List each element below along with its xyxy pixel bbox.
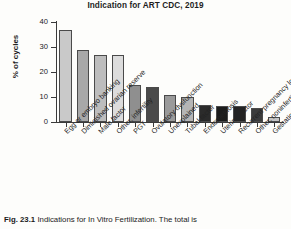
y-axis-tick-label: 0 <box>28 118 48 126</box>
y-axis-tick-label: 30 <box>28 43 48 51</box>
y-axis-tick <box>51 22 56 23</box>
chart-title: Indication for ART CDC, 2019 <box>0 1 291 10</box>
y-axis-tick <box>51 47 56 48</box>
y-axis-tick-label: 20 <box>28 68 48 76</box>
y-axis-label: % of cycles <box>11 20 20 94</box>
y-axis-tick-label: 40 <box>28 18 48 26</box>
figure-container: Indication for ART CDC, 2019 % of cycles… <box>0 0 291 229</box>
y-axis-tick <box>51 122 56 123</box>
y-axis-tick-label: 10 <box>28 93 48 101</box>
figure-number: Fig. 23.1 <box>4 215 35 224</box>
bar <box>59 30 71 123</box>
y-axis-tick <box>51 72 56 73</box>
figure-caption-text: Indications for In Vitro Fertilization. … <box>37 215 197 224</box>
y-axis-tick <box>51 97 56 98</box>
figure-caption: Fig. 23.1 Indications for In Vitro Ferti… <box>4 215 289 224</box>
